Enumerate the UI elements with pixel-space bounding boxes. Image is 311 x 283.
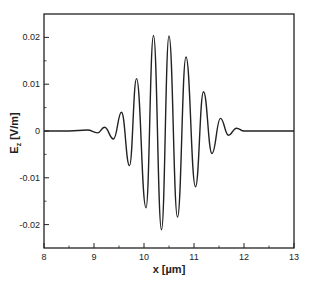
x-axis-ticks: 8910111213 — [41, 243, 299, 262]
ez-series-line — [44, 36, 294, 230]
line-chart: 8910111213 0.020.010-0.01-0.02 x [µm] Ez… — [0, 0, 311, 283]
x-tick-label: 12 — [239, 252, 249, 262]
y-axis-label-unit: [V/m] — [8, 112, 20, 143]
x-tick-label: 8 — [41, 252, 46, 262]
y-tick-label: 0.02 — [22, 32, 40, 42]
x-tick-label: 10 — [139, 252, 149, 262]
y-axis-label: Ez [V/m] — [8, 112, 22, 154]
x-tick-label: 9 — [91, 252, 96, 262]
x-axis-label: x [µm] — [153, 263, 186, 275]
y-axis-label-main: E — [8, 146, 20, 153]
y-tick-label: -0.02 — [19, 220, 40, 230]
y-tick-label: 0 — [35, 126, 40, 136]
y-tick-label: -0.01 — [19, 173, 40, 183]
x-tick-label: 13 — [289, 252, 299, 262]
x-tick-label: 11 — [189, 252, 198, 262]
y-tick-label: 0.01 — [22, 79, 40, 89]
